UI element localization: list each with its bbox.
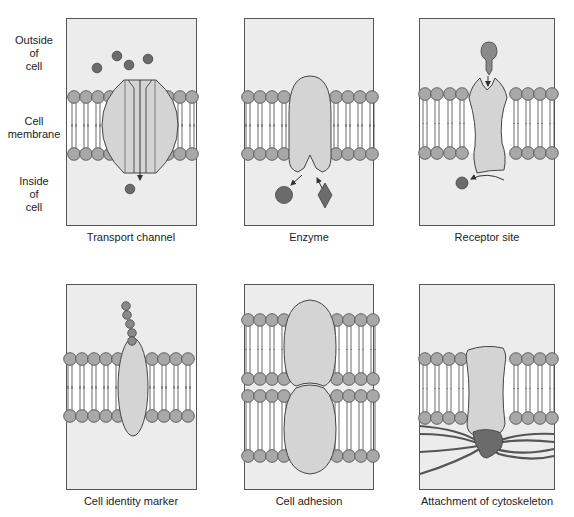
panel-transport-channel (66, 18, 197, 226)
label-line: cell (4, 201, 64, 214)
caption-receptor-site: Receptor site (397, 231, 574, 243)
panel-cell-adhesion (244, 284, 374, 490)
caption-attachment-of-cytoskeleton: Attachment of cytoskeleton (397, 495, 574, 507)
panel-cell-identity-marker (66, 284, 197, 490)
panel-enzyme (244, 18, 374, 226)
panel-attachment-of-cytoskeleton (419, 284, 555, 490)
marker-protein (118, 338, 148, 436)
caption-cell-adhesion: Cell adhesion (219, 495, 399, 507)
label-line: Cell (4, 115, 64, 128)
label-line: of (4, 47, 64, 60)
panel-receptor-site (419, 18, 555, 226)
label-line: Outside (4, 34, 64, 47)
anchor-protein (466, 346, 505, 436)
caption-enzyme: Enzyme (219, 231, 399, 243)
adhesion-protein-bottom (284, 385, 336, 474)
label-line: membrane (4, 128, 64, 141)
caption-transport-channel: Transport channel (41, 231, 221, 243)
receptor-protein (469, 78, 507, 173)
label-cell-membrane: Cell membrane (4, 115, 64, 141)
label-line: of (4, 188, 64, 201)
label-outside-of-cell: Outside of cell (4, 34, 64, 73)
label-inside-of-cell: Inside of cell (4, 175, 64, 214)
adhesion-protein-top (284, 300, 336, 386)
label-line: cell (4, 60, 64, 73)
caption-cell-identity-marker: Cell identity marker (41, 495, 221, 507)
label-line: Inside (4, 175, 64, 188)
